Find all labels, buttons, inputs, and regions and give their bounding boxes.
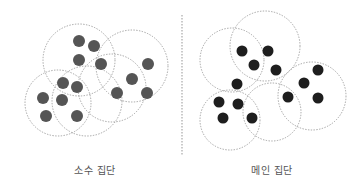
data-point	[247, 113, 258, 124]
main-cluster-circles	[200, 11, 346, 150]
data-point	[233, 99, 244, 110]
data-point	[271, 65, 282, 76]
cluster-circle	[96, 30, 168, 102]
data-point	[141, 87, 153, 99]
data-point	[111, 87, 123, 99]
data-point	[237, 46, 248, 57]
main-data-points	[214, 46, 324, 124]
minority-data-points	[37, 35, 154, 122]
data-point	[232, 79, 243, 90]
data-point	[214, 97, 225, 108]
main-group-panel	[200, 11, 346, 150]
data-point	[313, 93, 324, 104]
main-group-label: 메인 집단	[222, 162, 322, 177]
data-point	[263, 46, 274, 57]
data-point	[88, 40, 100, 52]
data-point	[57, 77, 69, 89]
data-point	[71, 81, 83, 93]
data-point	[249, 60, 260, 71]
data-point	[299, 78, 310, 89]
cluster-circle	[243, 83, 301, 141]
data-point	[313, 65, 324, 76]
minority-group-panel	[25, 24, 168, 136]
data-point	[126, 73, 138, 85]
data-point	[40, 110, 52, 122]
data-point	[218, 113, 229, 124]
data-point	[73, 35, 85, 47]
data-point	[73, 54, 85, 66]
data-point	[56, 94, 68, 106]
data-point	[95, 58, 107, 70]
data-point	[71, 110, 83, 122]
cluster-circle	[78, 54, 146, 122]
minority-group-label: 소수 집단	[45, 162, 145, 177]
data-point	[142, 58, 154, 70]
data-point	[37, 92, 49, 104]
data-point	[283, 92, 294, 103]
